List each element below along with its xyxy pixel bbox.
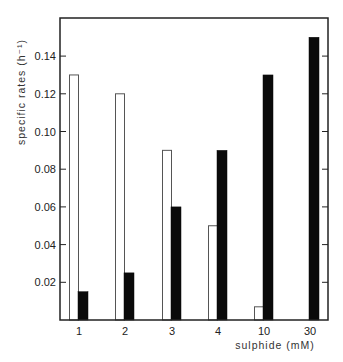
- y-tick-label: 0.10: [35, 126, 56, 138]
- filled-bar-4: [217, 150, 227, 320]
- y-tick-label: 0.04: [35, 239, 56, 251]
- x-tick-label-3: 3: [169, 325, 175, 337]
- plot-frame: [60, 18, 328, 320]
- bars-group: [70, 37, 320, 320]
- open-bar-2: [116, 94, 125, 320]
- y-tick-label: 0.12: [35, 88, 56, 100]
- x-tick-label-2: 2: [122, 325, 128, 337]
- y-tick-label: 0.08: [35, 163, 56, 175]
- filled-bar-1: [78, 292, 88, 320]
- y-tick-label: 0.06: [35, 201, 56, 213]
- filled-bar-3: [171, 207, 181, 320]
- filled-bar-10: [263, 75, 273, 320]
- filled-bar-2: [124, 273, 134, 320]
- x-axis-tick-labels: 12341030: [76, 325, 316, 337]
- open-bar-1: [70, 75, 79, 320]
- y-tick-label: 0.14: [35, 50, 56, 62]
- x-tick-label-10: 10: [258, 325, 270, 337]
- open-bar-10: [255, 307, 264, 320]
- y-axis-label: specific rates (h⁻¹): [15, 39, 27, 145]
- y-tick-label: 0.02: [35, 276, 56, 288]
- x-tick-label-4: 4: [215, 325, 221, 337]
- x-axis-label: sulphide (mM): [235, 339, 315, 351]
- x-tick-label-1: 1: [76, 325, 82, 337]
- open-bar-4: [209, 226, 218, 320]
- bar-chart: 0.020.040.060.080.100.120.14 12341030 sp…: [0, 0, 343, 362]
- x-tick-label-30: 30: [304, 325, 316, 337]
- open-bar-3: [163, 150, 172, 320]
- filled-bar-30: [309, 37, 319, 320]
